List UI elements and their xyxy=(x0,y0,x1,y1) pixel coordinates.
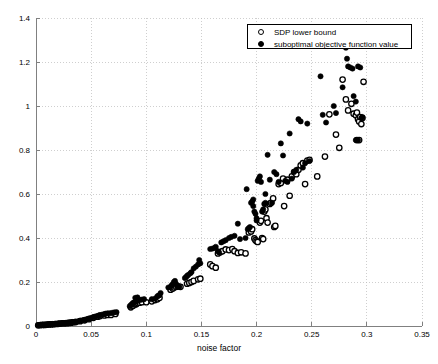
gridlines xyxy=(36,18,422,326)
x-tick-label: 0.05 xyxy=(83,330,99,339)
legend-item-suboptimal-objective: suboptimal objective function value xyxy=(248,38,411,49)
filled-circle-marker-icon xyxy=(258,41,264,47)
axis-lines xyxy=(36,18,422,326)
y-tick-label: 1.2 xyxy=(0,58,30,67)
legend-label-sdp-lower-bound: SDP lower bound xyxy=(274,27,336,36)
legend-item-sdp-lower-bound: SDP lower bound xyxy=(248,26,411,37)
y-tick-label: 0.4 xyxy=(0,234,30,243)
x-tick-label: 0.35 xyxy=(414,330,430,339)
open-circle-marker-icon xyxy=(258,29,264,35)
x-tick-label: 0.2 xyxy=(251,330,262,339)
y-tick-label: 0.6 xyxy=(0,190,30,199)
axis-ticks xyxy=(36,18,422,326)
x-tick-label: 0.25 xyxy=(304,330,320,339)
y-tick-label: 0.2 xyxy=(0,278,30,287)
series-suboptimal-objective xyxy=(36,45,365,328)
x-tick-label: 0.15 xyxy=(194,330,210,339)
legend-label-suboptimal-objective: suboptimal objective function value xyxy=(274,39,398,48)
plot-canvas xyxy=(0,0,438,364)
x-tick-label: 0.3 xyxy=(361,330,372,339)
y-tick-label: 1.4 xyxy=(0,14,30,23)
y-tick-label: 0 xyxy=(0,322,30,331)
x-tick-label: 0.1 xyxy=(141,330,152,339)
y-tick-label: 1 xyxy=(0,102,30,111)
x-axis-label: noise factor xyxy=(0,343,438,353)
scatter-plot-figure: 00.20.40.60.811.21.4 00.050.10.150.20.25… xyxy=(0,0,438,364)
x-tick-label: 0 xyxy=(34,330,38,339)
y-tick-label: 0.8 xyxy=(0,146,30,155)
series-sdp-lower-bound xyxy=(36,77,367,328)
legend: SDP lower bound suboptimal objective fun… xyxy=(247,24,412,49)
